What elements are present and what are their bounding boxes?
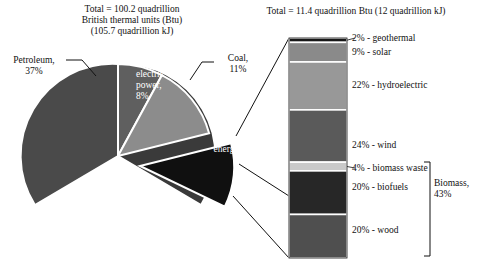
bar-label-solar: 9% - solar (352, 47, 391, 57)
biomass-bracket (424, 162, 430, 256)
bar-label-geothermal: 2% - geothermal (352, 33, 415, 43)
bar-label-biomass-waste: 4% - biomass waste (352, 163, 428, 173)
bar-segment-hydroelectric (289, 62, 347, 110)
bar-segment-biomass-waste (289, 162, 347, 171)
bar-label-ticks (347, 38, 355, 236)
bar-label-biofuels: 20% - biofuels (352, 182, 408, 192)
bar-segment-wood (289, 214, 347, 258)
bar-label-hydroelectric: 22% - hydroelectric (352, 80, 427, 90)
bar-segment-solar (289, 42, 347, 62)
biomass-group-label: Biomass, 43% (434, 178, 480, 201)
bar-segment-biofuels (289, 171, 347, 215)
bar-segments (289, 38, 347, 258)
bar-segment-wind (289, 110, 347, 162)
bar-label-wind: 24% - wind (352, 140, 396, 150)
figure-root: Total = 100.2 quadrillion British therma… (0, 0, 480, 267)
bar-label-wood: 20% - wood (352, 225, 398, 235)
